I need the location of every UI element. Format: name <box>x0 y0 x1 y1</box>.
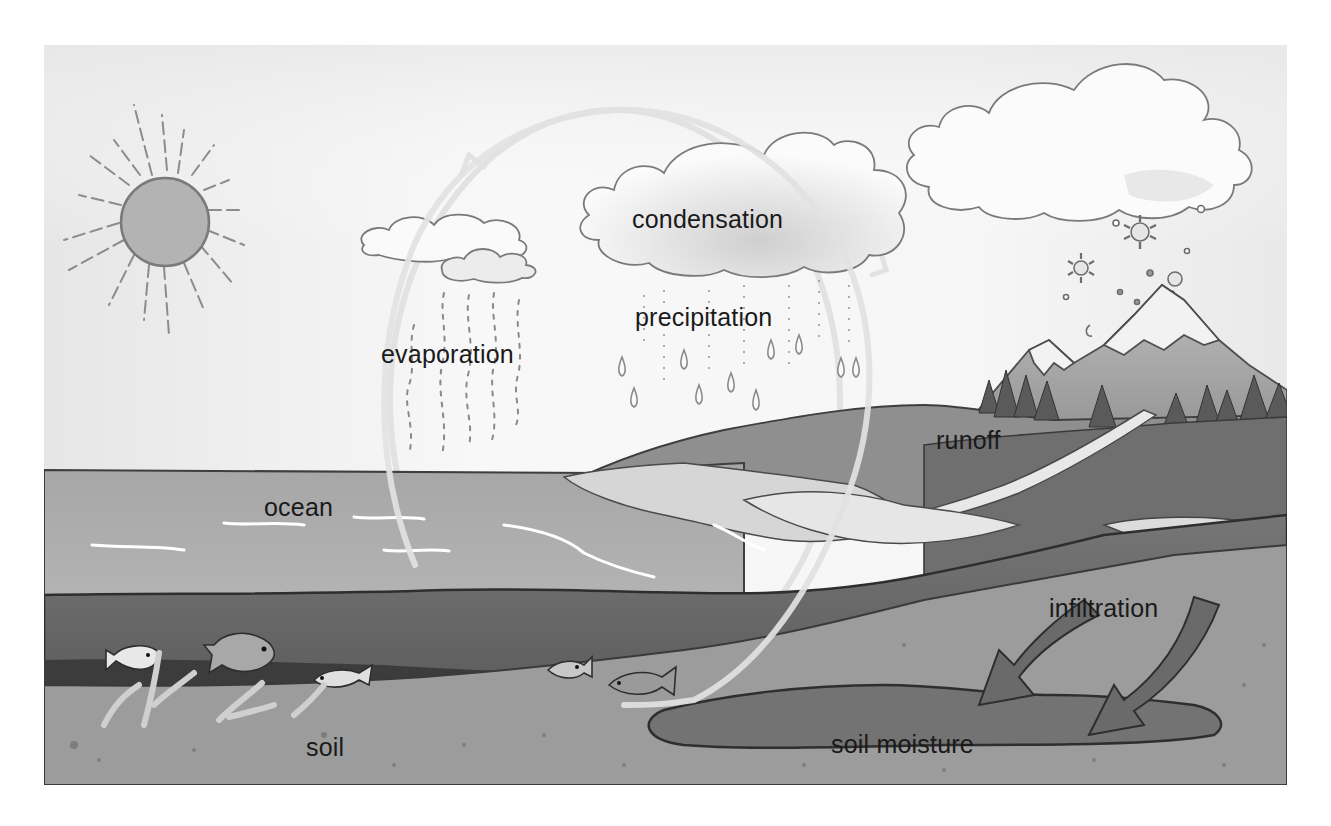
label-soil: soil <box>306 735 344 760</box>
scene-illustration <box>44 45 1287 785</box>
label-precipitation: precipitation <box>635 305 772 330</box>
label-ocean: ocean <box>264 495 333 520</box>
label-soil-moisture: soil moisture <box>831 732 974 757</box>
water-cycle-diagram: condensation precipitation evaporation r… <box>44 45 1287 785</box>
label-infiltration: infiltration <box>1049 596 1158 621</box>
label-runoff: runoff <box>936 428 1001 453</box>
label-condensation: condensation <box>632 207 783 232</box>
label-evaporation: evaporation <box>381 342 514 367</box>
